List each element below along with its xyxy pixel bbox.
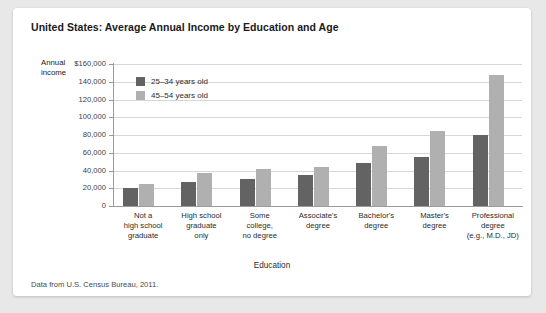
- legend-item: 45–54 years old: [136, 89, 208, 101]
- legend-swatch: [136, 77, 145, 86]
- y-axis-tick-label: $160,000: [74, 59, 106, 68]
- source-note: Data from U.S. Census Bureau, 2011.: [31, 280, 158, 289]
- y-axis-tick: [109, 153, 114, 154]
- bar: [473, 135, 488, 206]
- bar: [430, 131, 445, 206]
- y-axis-tick-label: 40,000: [83, 166, 106, 175]
- y-axis-tick: [109, 64, 114, 65]
- bar: [197, 173, 212, 206]
- x-axis-tick-label-line: no degree: [223, 231, 297, 241]
- bar: [181, 182, 196, 206]
- bar: [372, 146, 387, 206]
- bar-group: [464, 64, 522, 206]
- y-axis-tick: [109, 135, 114, 136]
- chart-legend: 25–34 years old45–54 years old: [136, 75, 208, 103]
- bar: [489, 75, 504, 206]
- y-axis-tick: [109, 117, 114, 118]
- y-axis-tick-label: 60,000: [83, 148, 106, 157]
- y-axis-tick: [109, 188, 114, 189]
- y-axis-tick-label: 140,000: [79, 77, 106, 86]
- x-axis-tick-label-line: degree: [456, 221, 530, 231]
- y-axis-tick: [109, 82, 114, 83]
- y-axis-tick-labels: $160,000140,000120,000100,00080,00060,00…: [13, 8, 106, 296]
- x-axis-title: Education: [13, 261, 531, 270]
- y-axis-tick-label: 100,000: [79, 112, 106, 121]
- bar: [256, 169, 271, 206]
- x-axis-tick-label: Professionaldegree(e.g., M.D., JD): [456, 211, 530, 242]
- x-axis-line: [113, 206, 523, 207]
- chart-card: United States: Average Annual Income by …: [13, 8, 531, 296]
- y-axis-tick: [109, 206, 114, 207]
- y-axis-tick-label: 0: [102, 201, 106, 210]
- bar: [298, 175, 313, 206]
- bar: [240, 179, 255, 207]
- legend-label: 25–34 years old: [151, 77, 208, 86]
- y-axis-tick: [109, 171, 114, 172]
- bar: [123, 188, 138, 206]
- bar: [314, 167, 329, 206]
- x-axis-tick-label-line: Professional: [456, 211, 530, 221]
- y-axis-tick-label: 80,000: [83, 130, 106, 139]
- bar-group: [289, 64, 347, 206]
- bar: [356, 163, 371, 206]
- legend-label: 45–54 years old: [151, 91, 208, 100]
- legend-item: 25–34 years old: [136, 75, 208, 87]
- x-axis-tick-labels: Not ahigh schoolgraduateHigh schoolgradu…: [114, 211, 522, 259]
- bar-group: [347, 64, 405, 206]
- x-axis-tick-label-line: (e.g., M.D., JD): [456, 231, 530, 241]
- bar-group: [231, 64, 289, 206]
- y-axis-tick-label: 120,000: [79, 95, 106, 104]
- y-axis-tick: [109, 100, 114, 101]
- bar: [414, 157, 429, 206]
- legend-swatch: [136, 91, 145, 100]
- bar: [139, 184, 154, 206]
- y-axis-tick-label: 20,000: [83, 183, 106, 192]
- bar-group: [405, 64, 463, 206]
